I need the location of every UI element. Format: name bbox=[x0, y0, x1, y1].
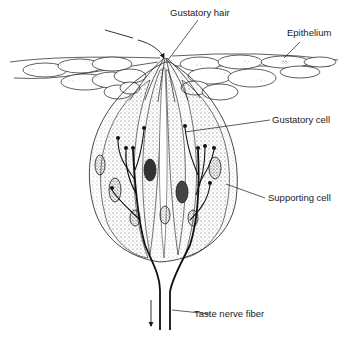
label-supporting-cell: Supporting cell bbox=[268, 192, 331, 203]
label-gustatory-cell: Gustatory cell bbox=[272, 114, 330, 125]
taste-bud-diagram bbox=[0, 0, 346, 340]
label-epithelium: Epithelium bbox=[287, 27, 331, 38]
stimulus-arrow bbox=[105, 30, 164, 58]
label-gustatory-hair: Gustatory hair bbox=[170, 7, 230, 18]
label-taste-nerve-fiber: Taste nerve fiber bbox=[194, 308, 264, 319]
